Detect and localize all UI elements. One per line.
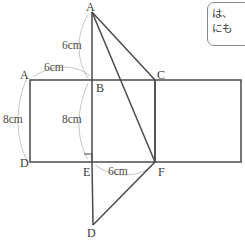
vertex-label-bottom-D: D [87, 227, 96, 239]
measure-label-BE-inner: 8cm [62, 114, 82, 126]
vertex-label-rect-top-left-A: A [20, 69, 29, 81]
vertex-label-point-F: F [158, 166, 165, 178]
vertex-label-apex-A: A [86, 1, 95, 13]
callout-line-1: は、 [212, 6, 245, 21]
measure-label-EF-bottom: 6cm [108, 166, 128, 178]
vertex-label-point-E: E [83, 166, 90, 178]
vertex-label-point-B: B [96, 82, 104, 94]
rectangle-right [155, 80, 241, 162]
guide-arcs [18, 15, 152, 175]
geometry-figure: A A B C D E F D 6cm 6cm 8cm 8cm 6cm は、 に… [0, 0, 245, 241]
measure-label-AB-horizontal: 6cm [44, 62, 64, 74]
rectangle-left [30, 80, 92, 162]
annotation-callout-box: は、 にも [207, 2, 245, 46]
edge-E-to-bottomD [92, 162, 93, 225]
vertex-label-rect-bottom-left-D: D [20, 157, 29, 169]
edge-apexA-to-C [92, 12, 155, 80]
right-angle-mark-at-E [84, 154, 92, 162]
vertex-label-point-C: C [157, 69, 165, 81]
callout-line-2: にも [212, 21, 245, 36]
measure-label-AB-vertical: 6cm [62, 40, 82, 52]
measure-label-AD-left: 8cm [3, 114, 23, 126]
